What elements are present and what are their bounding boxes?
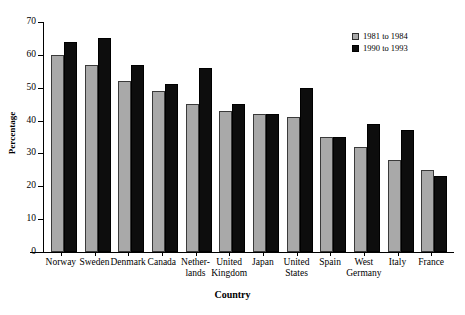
bar <box>152 91 165 252</box>
y-axis-tick <box>38 55 44 56</box>
bar <box>165 84 178 252</box>
y-axis-tick <box>38 121 44 122</box>
bar-group <box>354 22 380 252</box>
bar <box>232 104 245 252</box>
bar <box>367 124 380 252</box>
bar <box>354 147 367 252</box>
y-axis-tick-label: 30 <box>0 148 36 158</box>
bar <box>219 111 232 252</box>
x-axis-tick <box>196 252 197 256</box>
x-axis-tick <box>330 252 331 256</box>
bar <box>300 88 313 252</box>
y-axis-tick-labels: 010203040506070 <box>0 0 36 315</box>
x-axis-tick <box>398 252 399 256</box>
x-axis-tick <box>128 252 129 256</box>
bar <box>434 176 447 252</box>
x-axis-tick <box>297 252 298 256</box>
bar-group <box>421 22 447 252</box>
bar <box>253 114 266 252</box>
x-axis-tick <box>431 252 432 256</box>
y-axis-tick-label: 70 <box>0 17 36 27</box>
x-axis-tick <box>364 252 365 256</box>
legend-label: 1981 to 1984 <box>363 31 408 42</box>
bar <box>98 38 111 252</box>
y-axis-tick <box>38 219 44 220</box>
bar <box>421 170 434 252</box>
bar-group <box>219 22 245 252</box>
bar-group <box>186 22 212 252</box>
bar <box>118 81 131 252</box>
bar-group <box>51 22 77 252</box>
x-axis-tick <box>61 252 62 256</box>
x-axis-tick <box>95 252 96 256</box>
bar-group <box>253 22 279 252</box>
y-axis-tick <box>38 22 44 23</box>
y-axis-tick-label: 50 <box>0 83 36 93</box>
y-axis-tick <box>38 252 44 253</box>
bar <box>186 104 199 252</box>
bar <box>287 117 300 252</box>
bar <box>64 42 77 252</box>
y-axis-tick-label: 20 <box>0 181 36 191</box>
bar-group <box>152 22 178 252</box>
bar-group <box>320 22 346 252</box>
bar <box>401 130 414 252</box>
bar <box>131 65 144 252</box>
bar <box>320 137 333 252</box>
bar <box>199 68 212 252</box>
legend-swatch-icon <box>352 33 359 40</box>
bar <box>266 114 279 252</box>
y-axis-tick-label: 60 <box>0 50 36 60</box>
legend-label: 1990 to 1993 <box>363 43 408 54</box>
legend-item: 1990 to 1993 <box>352 43 408 54</box>
y-axis-tick-label: 10 <box>0 214 36 224</box>
bar <box>85 65 98 252</box>
x-axis-tick <box>162 252 163 256</box>
legend: 1981 to 19841990 to 1993 <box>352 31 408 55</box>
plot-area <box>44 22 448 252</box>
legend-swatch-icon <box>352 45 359 52</box>
y-axis-tick <box>38 153 44 154</box>
bar <box>388 160 401 252</box>
y-axis-tick-label: 40 <box>0 116 36 126</box>
y-axis-tick <box>38 88 44 89</box>
x-axis-category-label: France <box>405 257 457 268</box>
x-axis-title: Country <box>0 289 465 300</box>
bar-group <box>287 22 313 252</box>
bar-group <box>118 22 144 252</box>
bar <box>333 137 346 252</box>
x-axis-tick <box>229 252 230 256</box>
legend-item: 1981 to 1984 <box>352 31 408 42</box>
bar-group <box>388 22 414 252</box>
bar-chart: Percentage 010203040506070 Country 1981 … <box>0 0 465 315</box>
bar <box>51 55 64 252</box>
bar-group <box>85 22 111 252</box>
y-axis-tick <box>38 186 44 187</box>
x-axis-tick <box>263 252 264 256</box>
